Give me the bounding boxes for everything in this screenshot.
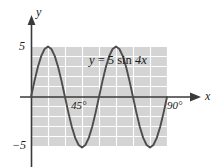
x-tick-label-90-degrees: 90° [167, 100, 182, 111]
x-axis-label: x [205, 90, 210, 102]
y-tick-label-5: 5 [19, 40, 25, 52]
equation-annotation: y = 5 sin 4x [89, 54, 147, 67]
graph-canvas [0, 0, 219, 168]
sine-curve-figure: y x 5 −5 45° 90° y = 5 sin 4x [0, 0, 219, 168]
y-tick-label-minus-5: −5 [12, 139, 26, 151]
equation-equals-coefficient: = 5 [95, 53, 118, 67]
y-axis-label: y [36, 6, 41, 18]
x-tick-label-45-degrees: 45° [71, 100, 86, 111]
equation-argument: 4x [132, 53, 147, 67]
equation-sine-function: sin [117, 53, 132, 67]
